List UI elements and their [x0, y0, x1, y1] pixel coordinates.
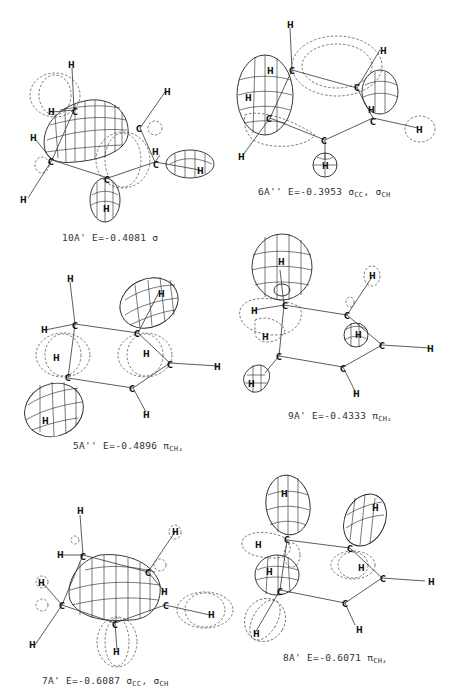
- atom-c: C: [282, 302, 288, 311]
- orbital-character: σ: [152, 232, 158, 243]
- atom-h: H: [158, 290, 165, 299]
- atom-h: H: [267, 67, 274, 76]
- orbital-panel-6a2: H H C H C H H C C H C H H 6A'' E=-0.3953…: [225, 0, 451, 210]
- atom-h: H: [428, 578, 435, 587]
- atom-h: H: [356, 626, 363, 635]
- atom-h: H: [57, 551, 64, 560]
- atom-h: H: [77, 507, 84, 516]
- orbital-diagram-5a2: H H H C C H H C H C C H H: [0, 260, 240, 440]
- orbital-caption-10a: 10A' E=-0.4081 σ: [62, 232, 158, 243]
- orbital-character-sub: CH₂: [373, 657, 387, 665]
- atom-h: H: [48, 108, 55, 117]
- atom-c: C: [136, 125, 142, 134]
- atom-h: H: [38, 579, 45, 588]
- atom-h: H: [248, 380, 255, 389]
- atom-h: H: [322, 162, 329, 171]
- atom-h: H: [368, 106, 375, 115]
- atom-h: H: [103, 205, 110, 214]
- atom-h: H: [238, 153, 245, 162]
- atom-h: H: [253, 630, 260, 639]
- atom-h: H: [197, 167, 204, 176]
- atom-c: C: [72, 108, 78, 117]
- orbital-energy: E=-0.6071: [307, 652, 361, 663]
- orbital-label: 8A': [283, 652, 301, 663]
- atom-h: H: [281, 490, 288, 499]
- atom-h: H: [68, 61, 75, 70]
- atom-h: H: [355, 331, 362, 340]
- orbital-character-sub: CH₂: [169, 445, 183, 453]
- orbital-energy: E=-0.4896: [103, 440, 157, 451]
- orbital-character-sub: CC: [354, 191, 363, 199]
- atom-h: H: [278, 258, 285, 267]
- orbital-caption-9a: 9A' E=-0.4333 πCH₂: [288, 410, 392, 423]
- atom-h: H: [358, 564, 365, 573]
- atom-c: C: [266, 115, 272, 124]
- atom-c: C: [370, 118, 376, 127]
- atom-h: H: [29, 641, 36, 650]
- atom-c: C: [321, 137, 327, 146]
- atom-h: H: [208, 611, 215, 620]
- atom-h: H: [161, 588, 168, 597]
- atom-h: H: [266, 568, 273, 577]
- atom-h: H: [369, 272, 376, 281]
- orbital-caption-7a: 7A' E=-0.6087 σCC, σCH: [42, 675, 168, 688]
- orbital-caption-6a2: 6A'' E=-0.3953 σCC, σCH: [258, 186, 391, 199]
- orbital-character-2-sub: CH: [159, 680, 168, 688]
- atom-c: C: [80, 553, 86, 562]
- orbital-caption-8a: 8A' E=-0.6071 πCH₂: [283, 652, 387, 665]
- atom-c: C: [289, 67, 295, 76]
- atom-h: H: [255, 541, 262, 550]
- atom-h: H: [262, 333, 269, 342]
- orbital-panel-8a: H H C H C H H C H C C H H 8A' E=-0.6071 …: [220, 440, 451, 670]
- orbital-label: 9A': [288, 410, 306, 421]
- orbital-energy: E=-0.6087: [66, 675, 120, 686]
- atom-h: H: [416, 126, 423, 135]
- atom-c: C: [354, 84, 360, 93]
- atom-h: H: [30, 134, 37, 143]
- atom-h: H: [372, 504, 379, 513]
- orbital-diagram-9a: H H H C C H H C H C C H H: [225, 215, 451, 405]
- atom-c: C: [163, 602, 169, 611]
- atom-h: H: [42, 417, 49, 426]
- atom-h: H: [143, 411, 150, 420]
- orbital-diagram-6a2: H H C H C H H C C H C H H: [225, 0, 451, 190]
- atom-h: H: [287, 21, 294, 30]
- atom-c: C: [347, 545, 353, 554]
- orbital-diagram-8a: H H C H C H H C H C C H H: [220, 440, 451, 650]
- atom-h: H: [53, 354, 60, 363]
- orbital-diagram-7a: H H H C C H H C C H C H H: [0, 470, 240, 670]
- atom-h: H: [41, 326, 48, 335]
- orbital-label: 5A'': [73, 440, 97, 451]
- orbital-panel-7a: H H H C C H H C C H C H H 7A' E=-0.6087 …: [0, 470, 240, 692]
- orbital-label: 10A': [62, 232, 86, 243]
- atom-c: C: [344, 312, 350, 321]
- atom-c: C: [134, 330, 140, 339]
- orbital-energy: E=-0.3953: [288, 186, 342, 197]
- atom-c: C: [59, 602, 65, 611]
- orbital-panel-9a: H H H C C H H C H C C H H 9A' E=-0.4333 …: [225, 215, 451, 425]
- orbital-label: 6A'': [258, 186, 282, 197]
- atom-h: H: [172, 528, 179, 537]
- atom-c: C: [112, 621, 118, 630]
- atom-h: H: [164, 88, 171, 97]
- atom-h: H: [143, 350, 150, 359]
- atom-h: H: [214, 363, 221, 372]
- atom-h: H: [380, 47, 387, 56]
- atom-c: C: [145, 569, 151, 578]
- orbital-caption-5a2: 5A'' E=-0.4896 πCH₂: [73, 440, 183, 453]
- atom-c: C: [380, 575, 386, 584]
- atom-c: C: [276, 353, 282, 362]
- atom-c: C: [342, 600, 348, 609]
- atom-h: H: [245, 94, 252, 103]
- atom-h: H: [20, 196, 27, 205]
- orbital-diagram-10a: H H C H C H C H C H C H H: [0, 0, 230, 230]
- atom-c: C: [129, 385, 135, 394]
- orbital-panel-5a2: H H H C C H H C H C C H H 5A'' E=-0.4896…: [0, 260, 240, 470]
- orbital-energy: E=-0.4081: [92, 232, 146, 243]
- atom-c: C: [167, 361, 173, 370]
- atom-h: H: [251, 307, 258, 316]
- orbital-character-sub: CH₂: [378, 415, 392, 423]
- orbital-character-sub: CC: [132, 680, 141, 688]
- atom-h: H: [152, 148, 159, 157]
- atom-c: C: [277, 588, 283, 597]
